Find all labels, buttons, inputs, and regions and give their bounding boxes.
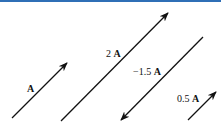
label-vector-symbol: A [154,66,161,77]
vector-arrows [0,0,221,135]
label-A: A [27,84,34,94]
vector-A-arrow [12,63,67,118]
vector-diagram: A 2 A −1.5 A 0.5 A [0,0,221,135]
label-coefficient: 2 [106,48,114,59]
vector-neg1.5A-arrow [121,37,203,120]
label-neg1.5A: −1.5 A [133,67,161,77]
label-coefficient: 0.5 [177,93,192,104]
label-vector-symbol: A [114,48,121,59]
label-2A: 2 A [106,49,121,59]
label-vector-symbol: A [192,93,199,104]
label-coefficient: −1.5 [133,66,154,77]
label-0.5A: 0.5 A [177,94,199,104]
label-vector-symbol: A [27,83,34,94]
